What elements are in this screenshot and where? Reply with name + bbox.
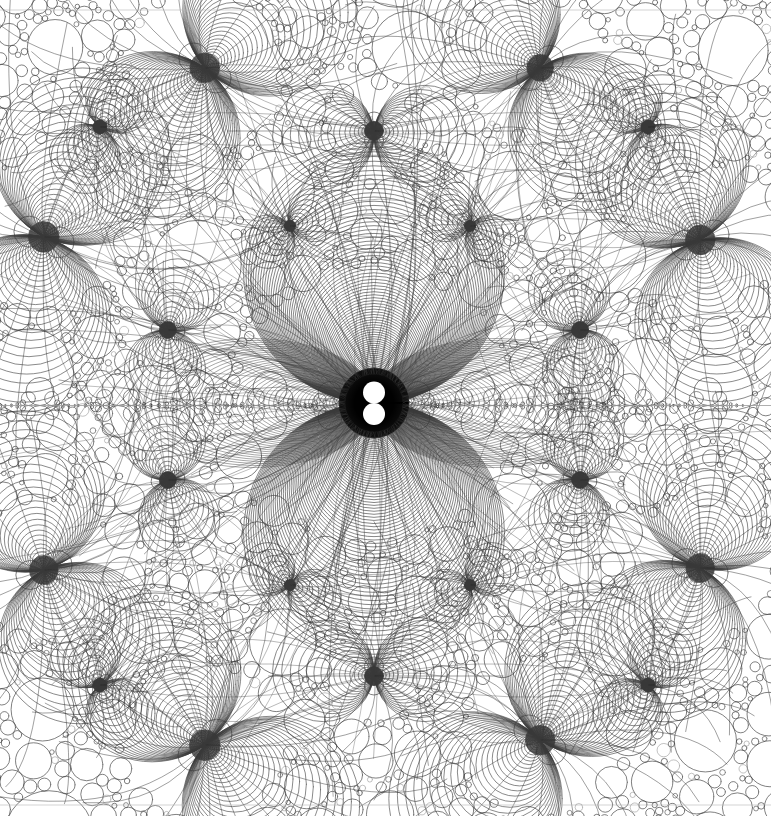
limit-set-canvas (0, 0, 771, 816)
kleinian-figure-root: Apollonian circle packing / Kleinian gro… (0, 0, 771, 816)
